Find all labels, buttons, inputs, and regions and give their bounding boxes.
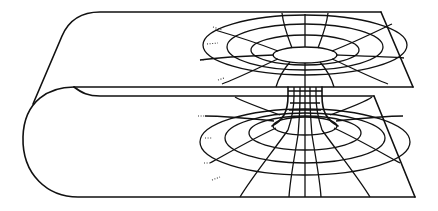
throat bbox=[288, 87, 322, 96]
wormhole-diagram bbox=[0, 0, 438, 211]
upper-sheet bbox=[200, 12, 413, 87]
wormhole-svg bbox=[0, 0, 438, 211]
lower-sheet bbox=[198, 96, 415, 197]
